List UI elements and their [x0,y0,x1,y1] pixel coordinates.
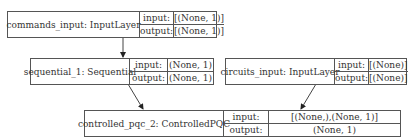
edge-circuits-to-controlled [301,84,316,109]
input-shape: [(None, 1)] [174,12,224,24]
output-label: output: [130,71,167,84]
node-commands-input: commands_input: InputLayer input: output… [7,11,217,38]
output-shape: [(None)] [369,71,407,84]
input-label: input: [140,12,173,24]
output-label: output: [140,24,173,37]
node-label: circuits_input: InputLayer [226,59,335,84]
output-label: output: [335,71,368,84]
node-label: commands_input: InputLayer [8,12,140,37]
node-label: sequential_1: Sequential [31,59,130,84]
node-circuits-input: circuits_input: InputLayer input: output… [225,58,407,85]
input-shape: (None, 1) [168,59,213,71]
input-shape: [(None)] [369,59,407,71]
output-shape: [(None, 1)] [174,24,224,37]
input-label: input: [130,59,167,71]
edge-sequential-to-controlled [128,84,143,109]
output-label: output: [224,123,268,136]
input-shape: [(None,),(None, 1)] [269,111,400,123]
node-sequential-1: sequential_1: Sequential input: output: … [30,58,214,85]
input-label: input: [224,111,268,123]
output-shape: (None, 1) [269,123,400,136]
output-shape: (None, 1) [168,71,213,84]
input-label: input: [335,59,368,71]
node-label: controlled_pqc_2: ControlledPQC [85,111,224,136]
node-controlled-pqc-2: controlled_pqc_2: ControlledPQC input: o… [84,110,401,137]
